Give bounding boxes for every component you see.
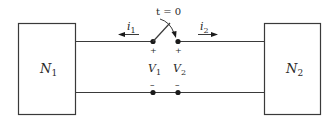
terminal-dot-bottom-right: [175, 90, 180, 95]
voltage-v2-label: V2: [173, 62, 186, 77]
current-i2-label: i2: [200, 20, 209, 35]
terminal-dot-top-right: [175, 39, 180, 44]
arrow-left-icon: [118, 32, 125, 37]
switch-arm: [153, 23, 170, 42]
current-i1-label: i1: [127, 20, 136, 35]
arrow-right-icon: [211, 32, 218, 37]
network-n1-label: N1: [39, 61, 57, 78]
v2-plus-sign: +: [175, 46, 182, 55]
v1-plus-sign: +: [150, 46, 157, 55]
circuit-diagram: N1 N2 t = 0 i1 i2 + + V1 V2 – –: [0, 0, 335, 120]
voltage-v1-label: V1: [148, 62, 161, 77]
switch-time-label: t = 0: [156, 6, 181, 17]
network-n2-label: N2: [285, 61, 303, 78]
switch-arrow-head-icon: [172, 31, 177, 38]
v1-minus-sign: –: [150, 80, 155, 90]
terminal-dot-bottom-left: [150, 90, 155, 95]
v2-minus-sign: –: [175, 80, 180, 90]
